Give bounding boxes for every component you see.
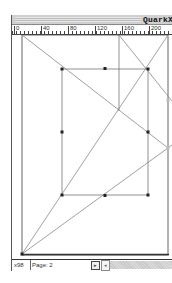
diagonal-line[interactable] (119, 35, 172, 101)
resize-handle[interactable] (61, 131, 64, 134)
resize-handle[interactable] (147, 68, 150, 71)
ruler-major-tick (41, 26, 42, 34)
ruler-label: 160 (124, 25, 134, 32)
ruler-label: 40 (43, 25, 50, 32)
window-title: QuarkX (141, 15, 172, 24)
selected-box[interactable] (62, 69, 148, 195)
resize-handle[interactable] (147, 131, 150, 134)
resize-handle[interactable] (104, 67, 107, 70)
line-endpoint[interactable] (21, 253, 24, 256)
page-menu-button[interactable]: ▸ (91, 261, 100, 270)
resize-handle[interactable] (61, 194, 64, 197)
status-bar: x98 Page: 2 ▸ ◂ (12, 259, 172, 270)
horizontal-scrollbar[interactable] (110, 261, 172, 269)
ruler-ticks (12, 31, 172, 34)
title-bar[interactable]: QuarkX (12, 15, 172, 25)
page-drawing (12, 35, 172, 259)
line-endpoint[interactable] (167, 146, 170, 149)
document-canvas[interactable] (12, 35, 172, 259)
diagonal-line[interactable] (22, 35, 168, 148)
title-bar-stripes (15, 17, 141, 22)
ruler-label: 200 (151, 25, 161, 32)
ruler-major-tick (95, 26, 96, 34)
ruler-major-tick (68, 26, 69, 34)
ruler-label: 0 (16, 25, 19, 32)
ruler-major-tick (149, 26, 150, 34)
horizontal-ruler[interactable]: 0 40 80 120 160 200 (12, 25, 172, 35)
scroll-left-arrow[interactable]: ◂ (101, 260, 110, 271)
page-indicator: Page: 2 (32, 260, 90, 270)
ruler-major-tick (122, 26, 123, 34)
diagonal-line[interactable] (22, 145, 172, 254)
ruler-label: 120 (97, 25, 107, 32)
ruler-major-tick (14, 26, 15, 34)
resize-handle[interactable] (147, 194, 150, 197)
resize-handle[interactable] (104, 194, 107, 197)
quarkxpress-window: QuarkX 0 40 80 120 160 200 (11, 15, 172, 271)
zoom-level-field[interactable]: x98 (14, 260, 31, 270)
diagonal-line[interactable] (22, 35, 168, 254)
line-endpoint[interactable] (167, 99, 170, 102)
ruler-label: 80 (70, 25, 77, 32)
resize-handle[interactable] (61, 68, 64, 71)
